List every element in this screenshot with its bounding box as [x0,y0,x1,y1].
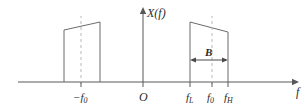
bandwidth-double-arrow [190,57,228,62]
tick-label-neg-f0-base: −f [73,91,83,103]
tick-label-fh: fH [224,92,233,105]
y-axis-arrowhead [140,7,146,14]
y-axis-label: X(f) [147,7,166,19]
x-axis-group [18,79,299,85]
tick-label-fh-sub: H [227,96,233,105]
tick-label-neg-f0: −f0 [73,92,87,105]
tick-label-f0-sub: 0 [210,96,214,105]
tick-label-f0: f0 [207,92,214,105]
tick-label-neg-f0-sub: 0 [83,96,87,105]
x-axis-label: f [296,86,299,98]
negative-frequency-lobe [64,22,100,82]
bandwidth-arrowhead-right [222,57,228,62]
y-axis-group [140,7,146,82]
tick-label-fl: fL [186,92,193,105]
spectrum-figure: X(f) f O −f0 fL f0 fH B [0,0,307,111]
bandwidth-arrowhead-left [190,57,196,62]
tick-label-fl-sub: L [189,96,193,105]
bandwidth-label: B [205,47,212,58]
negative-lobe-outline [64,22,100,82]
origin-label: O [139,91,148,103]
